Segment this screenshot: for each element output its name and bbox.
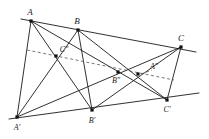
point-label-C: C xyxy=(178,34,184,43)
point-marker xyxy=(29,19,32,22)
point-marker xyxy=(179,45,182,48)
A-to-C' xyxy=(31,21,167,100)
point-label-App: A" xyxy=(150,63,158,71)
A-to-A' xyxy=(17,21,31,117)
point-label-Cp: C' xyxy=(163,106,170,114)
geometry-canvas xyxy=(0,0,209,139)
point-marker xyxy=(15,115,18,118)
point-label-Cpp: C" xyxy=(60,46,69,54)
point-marker xyxy=(76,28,79,31)
point-label-Bp: B' xyxy=(89,117,96,125)
point-marker xyxy=(165,98,168,101)
point-marker xyxy=(90,108,93,111)
pappus-figure: ABCA'B'C'A"B"C" xyxy=(0,0,209,139)
solid-line-group xyxy=(9,19,199,119)
point-label-B: B xyxy=(74,17,80,26)
line-ABC xyxy=(21,19,196,52)
point-marker xyxy=(54,54,57,57)
point-label-A: A xyxy=(27,8,33,17)
point-label-Bpp: B" xyxy=(112,77,120,85)
point-label-Ap: A' xyxy=(14,124,21,132)
B-to-B' xyxy=(78,30,92,110)
point-marker xyxy=(116,70,119,73)
point-marker xyxy=(136,72,139,75)
